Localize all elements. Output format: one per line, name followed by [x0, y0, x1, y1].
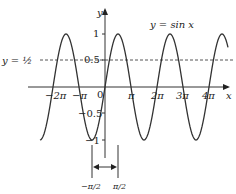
y-tick-0.5: 0.5	[84, 54, 100, 65]
arrow-right-icon	[111, 164, 117, 170]
interval-right-label: π/2	[112, 182, 126, 191]
x-tick-neg2pi: −2π	[45, 90, 67, 101]
y-tick-1: 1	[93, 28, 99, 39]
x-axis-label: x	[226, 90, 232, 101]
y-tick-neg1: −1	[85, 135, 100, 146]
x-tick-2pi: 2π	[150, 90, 164, 101]
sine-graph: y x 0 y = sin x y = ½ 1 0.5 −0.5 −1 −2π …	[0, 0, 236, 194]
y-axis-label: y	[96, 7, 103, 18]
origin-label: 0	[97, 89, 103, 100]
interval-left-label: −π/2	[81, 182, 101, 191]
x-tick-pi: π	[127, 90, 135, 101]
x-tick-3pi: 3π	[176, 90, 189, 101]
x-tick-4pi: 4π	[201, 90, 215, 101]
reference-line-label: y = ½	[1, 55, 32, 66]
arrow-left-icon	[93, 164, 99, 170]
x-tick-negpi: −π	[72, 90, 87, 101]
y-axis-arrow-icon	[102, 8, 108, 15]
chart-title: y = sin x	[149, 19, 194, 30]
y-tick-neg0.5: −0.5	[78, 108, 102, 119]
